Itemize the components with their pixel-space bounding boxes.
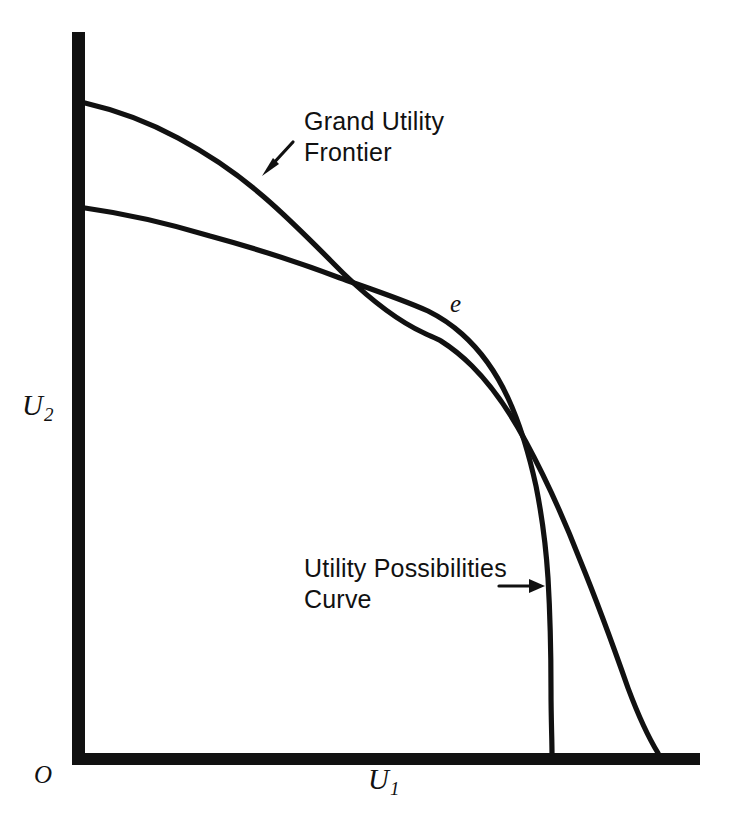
grand-utility-frontier-label: Grand Utility Frontier [304,106,444,167]
y-axis-bar [72,32,85,765]
y-axis-label: U2 [22,388,52,423]
x-axis-label: U1 [368,762,398,797]
grand-utility-frontier-leader [262,142,293,176]
utility-frontier-figure: Grand Utility Frontier Utility Possibili… [0,0,731,821]
grand-utility-frontier-curve [85,103,658,753]
y-axis-label-subscript: 2 [44,404,54,425]
x-axis-label-subscript: 1 [390,778,400,799]
utility-possibilities-curve-label: Utility Possibilities Curve [304,553,507,614]
utility-possibilities-curve [85,208,552,753]
x-axis-label-base: U [368,763,389,795]
origin-label: O [34,760,52,791]
equilibrium-point-label: e [450,289,461,320]
y-axis-label-base: U [22,389,43,421]
